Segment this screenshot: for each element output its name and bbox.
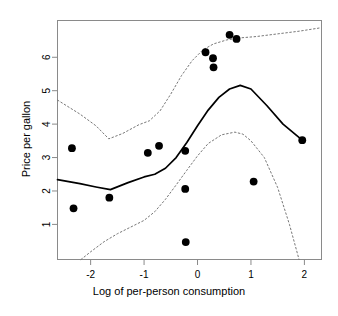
- y-axis-label: Price per gallon: [20, 59, 32, 219]
- plot-frame: [58, 21, 322, 260]
- data-point: [70, 204, 78, 212]
- data-point: [144, 149, 152, 157]
- x-axis-label: Log of per-person consumption: [0, 285, 338, 297]
- x-tick-label: 1: [248, 269, 254, 280]
- plot-canvas: -2-1012 123456: [0, 0, 338, 316]
- data-point: [181, 147, 189, 155]
- data-points: [68, 31, 306, 246]
- data-point: [210, 63, 218, 71]
- x-tick-label: -2: [86, 269, 95, 280]
- data-point: [202, 48, 210, 56]
- y-tick-label: 6: [41, 54, 52, 60]
- x-tick-label: 2: [302, 269, 308, 280]
- confidence-band-curve: [81, 132, 299, 259]
- x-tick-label: -1: [140, 269, 149, 280]
- fitted-line-curve: [58, 85, 303, 189]
- data-point: [226, 31, 234, 39]
- data-point: [105, 194, 113, 202]
- x-axis-ticks: -2-1012: [86, 260, 307, 280]
- data-point: [298, 136, 306, 144]
- y-tick-label: 3: [41, 154, 52, 160]
- data-point: [182, 238, 190, 246]
- y-tick-label: 5: [41, 87, 52, 93]
- y-tick-label: 1: [41, 221, 52, 227]
- y-axis-ticks: 123456: [41, 54, 58, 227]
- fitted-curve: [58, 85, 303, 189]
- confidence-bands: [58, 28, 321, 260]
- data-point: [209, 54, 217, 62]
- scatter-plot-figure: -2-1012 123456 Log of per-person consump…: [0, 0, 338, 316]
- data-point: [250, 178, 258, 186]
- data-point: [181, 185, 189, 193]
- x-tick-label: 0: [195, 269, 201, 280]
- data-point: [68, 144, 76, 152]
- y-tick-label: 4: [41, 121, 52, 127]
- y-tick-label: 2: [41, 188, 52, 194]
- data-point: [155, 142, 163, 150]
- data-point: [233, 35, 241, 43]
